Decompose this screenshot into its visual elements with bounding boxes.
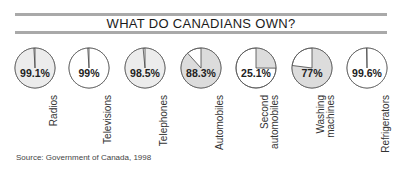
category-label-text: Telephones (159, 95, 169, 146)
title-rule-bottom (15, 31, 387, 34)
category-label-text: Washingmachines (316, 95, 336, 138)
category-label-text: Televisions (103, 95, 113, 144)
category-label-text: Refrigerators (381, 95, 391, 153)
category-label: Secondautomobiles (232, 95, 280, 143)
category-label-text: Automobiles (215, 95, 225, 150)
pie-automobiles: 88.3% (180, 47, 222, 89)
category-label: Radios (11, 95, 59, 143)
category-label: Washingmachines (288, 95, 336, 143)
category-label-line: automobiles (270, 95, 280, 149)
source-note: Source: Government of Canada, 1998 (16, 153, 151, 162)
pie-second-automobiles: 25.1% (235, 47, 277, 89)
pie-televisions: 99% (68, 47, 110, 89)
category-label: Telephones (121, 95, 169, 143)
pie-refrigerators: 99.6% (346, 47, 388, 89)
pie-value-label: 99.1% (4, 67, 66, 79)
pie-value-label: 88.3% (170, 67, 232, 79)
pie-radios: 99.1% (14, 47, 56, 89)
pie-value-label: 25.1% (225, 67, 287, 79)
chart-title: WHAT DO CANADIANS OWN? (15, 16, 387, 31)
category-label: Refrigerators (343, 95, 391, 143)
category-label-line: machines (326, 95, 336, 138)
pie-value-label: 77% (281, 67, 343, 79)
pie-value-label: 99% (58, 67, 120, 79)
pie-telephones: 98.5% (124, 47, 166, 89)
pie-value-label: 99.6% (336, 67, 398, 79)
category-label: Automobiles (177, 95, 225, 143)
category-label-text: Secondautomobiles (260, 95, 280, 149)
pie-washing-machines: 77% (291, 47, 333, 89)
category-label-text: Radios (49, 95, 59, 126)
category-label: Televisions (65, 95, 113, 143)
pie-value-label: 98.5% (114, 67, 176, 79)
